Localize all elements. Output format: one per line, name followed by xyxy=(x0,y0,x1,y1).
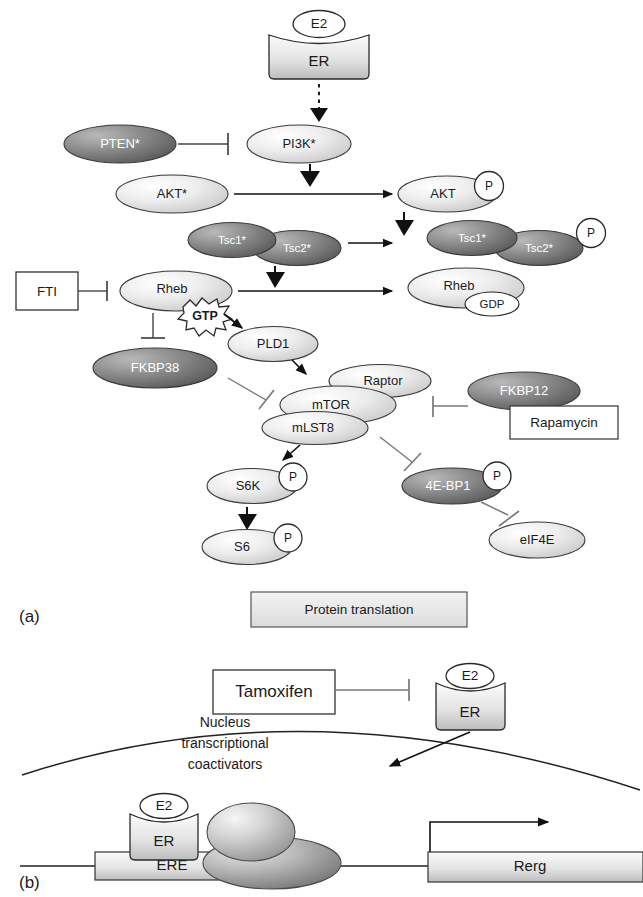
arrow-s6k-to-s6 xyxy=(238,507,257,530)
tsc1-phospho-label: Tsc1* xyxy=(458,232,487,244)
node-pi3k: PI3K* xyxy=(247,125,351,163)
pathway-diagram: E2 ER PTEN* PI3K* AKT* AKT P xyxy=(0,0,643,897)
arrow-pi3k-to-akt xyxy=(300,164,320,187)
inhibition-mtor-4ebp1 xyxy=(380,437,421,471)
panel-label-b: (b) xyxy=(19,873,40,892)
receptor-complex-bound: E2 ER xyxy=(130,794,198,861)
node-akt-phospho: AKT P xyxy=(398,172,504,213)
er-receptor-label-top: ER xyxy=(309,52,330,69)
node-rheb-gdp: Rheb GDP xyxy=(408,268,524,316)
phospho-label-s6: P xyxy=(284,531,292,545)
er-receptor-label-bound: ER xyxy=(154,832,175,849)
node-tsc-complex-inactive: Tsc1* Tsc2* xyxy=(188,223,341,266)
dna-element-rerg: Rerg xyxy=(428,852,643,882)
inhibition-pten-pi3k xyxy=(178,133,228,155)
mlst8-label: mLST8 xyxy=(292,420,334,435)
nuclear-membrane-arc xyxy=(22,731,640,790)
phospho-label-tsc2: P xyxy=(587,226,595,240)
pten-label: PTEN* xyxy=(100,136,140,151)
box-fti: FTI xyxy=(16,272,78,310)
nucleus-text-line-1: Nucleus xyxy=(200,714,251,730)
akt-inactive-label: AKT* xyxy=(157,186,187,201)
node-s6: S6 P xyxy=(202,524,302,565)
arrow-tsc-to-rheb xyxy=(266,266,285,288)
s6-label: S6 xyxy=(234,539,250,554)
tsc2-inactive-label: Tsc2* xyxy=(283,242,312,254)
fti-box-label: FTI xyxy=(37,284,57,299)
box-tamoxifen: Tamoxifen xyxy=(213,670,335,714)
gtp-label: GTP xyxy=(192,309,218,323)
phospho-label-akt: P xyxy=(485,179,493,193)
box-protein-translation: Protein translation xyxy=(251,592,467,627)
pi3k-label: PI3K* xyxy=(282,136,315,151)
node-pld1: PLD1 xyxy=(228,327,318,362)
coactivator-complex xyxy=(203,803,341,889)
receptor-complex-top: E2 ER xyxy=(269,11,369,80)
node-s6k: S6K P xyxy=(207,463,307,504)
tamoxifen-box-label: Tamoxifen xyxy=(235,682,312,701)
arrow-akt-to-tsc xyxy=(395,212,414,236)
nucleus-text: Nucleus transcriptional coactivators xyxy=(181,714,268,772)
node-tsc-complex-phospho: Tsc1* Tsc2* P xyxy=(427,219,606,266)
mtor-label: mTOR xyxy=(312,397,350,412)
node-4ebp1: 4E-BP1 P xyxy=(402,462,511,504)
nucleus-text-line-3: coactivators xyxy=(188,756,263,772)
arrow-mtor-to-s6k xyxy=(283,445,300,460)
phospho-label-4ebp1: P xyxy=(493,469,501,483)
rheb-gdp-label: Rheb xyxy=(443,278,474,293)
4ebp1-label: 4E-BP1 xyxy=(426,478,471,493)
inhibition-fkbp38-mtor xyxy=(228,378,274,409)
fkbp38-label: FKBP38 xyxy=(131,360,179,375)
raptor-label: Raptor xyxy=(363,373,403,388)
protein-translation-label: Protein translation xyxy=(305,602,414,617)
node-fkbp38: FKBP38 xyxy=(93,348,217,388)
box-rapamycin: Rapamycin xyxy=(510,406,618,439)
s6k-label: S6K xyxy=(236,478,261,493)
node-fkbp12: FKBP12 xyxy=(468,372,580,410)
e2-ligand-label-bound: E2 xyxy=(156,798,173,813)
fkbp12-label: FKBP12 xyxy=(500,383,548,398)
rapamycin-box-label: Rapamycin xyxy=(530,415,598,430)
figure-root: E2 ER PTEN* PI3K* AKT* AKT P xyxy=(0,0,643,897)
inhibition-fkbp12-mtor xyxy=(433,396,468,417)
e2-ligand-label-top: E2 xyxy=(311,16,328,31)
inhibition-fti-rheb xyxy=(78,281,107,301)
tsc2-phospho-label: Tsc2* xyxy=(525,242,554,254)
panel-label-a: (a) xyxy=(19,607,40,626)
node-eif4e: eIF4E xyxy=(489,522,585,558)
coactivator-blob-upper xyxy=(207,803,295,861)
gdp-label: GDP xyxy=(480,298,505,310)
rerg-box-label: Rerg xyxy=(514,857,547,874)
er-receptor-label-cyto: ER xyxy=(460,703,481,720)
phospho-label-s6k: P xyxy=(289,470,297,484)
tsc1-inactive-label: Tsc1* xyxy=(218,234,247,246)
receptor-complex-cytoplasmic: E2 ER xyxy=(436,664,505,731)
transcription-arrow xyxy=(430,822,548,852)
nucleus-text-line-2: transcriptional xyxy=(181,735,268,751)
e2-ligand-label-cyto: E2 xyxy=(462,668,479,683)
inhibition-tamoxifen-er xyxy=(335,679,409,701)
node-mtor-complex: Raptor mTOR mLST8 xyxy=(262,365,431,445)
akt-phospho-label: AKT xyxy=(430,186,455,201)
node-rheb-gtp: Rheb GTP xyxy=(120,271,232,336)
pld1-label: PLD1 xyxy=(257,336,290,351)
rheb-gtp-label: Rheb xyxy=(156,281,187,296)
inhibition-rheb-fkbp38 xyxy=(141,313,165,338)
eif4e-label: eIF4E xyxy=(520,532,555,547)
arrow-er-to-pi3k xyxy=(310,84,328,122)
node-pten: PTEN* xyxy=(64,125,176,163)
node-akt-inactive: AKT* xyxy=(116,175,228,213)
inhibition-4ebp1-eif4e xyxy=(481,502,519,526)
arrow-pld1-to-mtor xyxy=(292,360,306,374)
